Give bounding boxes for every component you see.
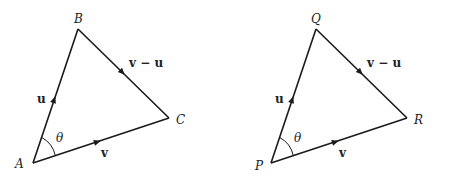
edge-label-u: u [275, 92, 284, 106]
vertex-label-p: P [254, 159, 264, 173]
edge-label-v: v [338, 146, 347, 160]
vertex-label-b: B [73, 12, 83, 26]
edge-label-u: u [37, 92, 46, 106]
arrow-v-icon [93, 138, 102, 146]
triangle-abc: B A C u v − u v θ [14, 12, 185, 171]
angle-theta-arc [280, 137, 294, 155]
edge-label-v-minus-u: v − u [366, 56, 401, 70]
triangle-pqr: Q P R u v − u v θ [254, 12, 423, 173]
angle-label-theta: θ [56, 131, 64, 145]
angle-label-theta: θ [294, 131, 302, 145]
vector-triangles-figure: B A C u v − u v θ Q P R u v − u v θ [0, 0, 449, 180]
arrow-u-icon [50, 95, 58, 104]
arrow-v-icon [331, 138, 340, 146]
angle-theta-arc [42, 137, 56, 155]
arrow-u-icon [288, 95, 296, 104]
vertex-label-r: R [413, 113, 423, 127]
vertex-label-c: C [176, 113, 185, 127]
edge-label-v-minus-u: v − u [128, 56, 163, 70]
vertex-label-a: A [14, 157, 24, 171]
edge-label-v: v [100, 146, 109, 160]
vertex-label-q: Q [311, 12, 321, 26]
